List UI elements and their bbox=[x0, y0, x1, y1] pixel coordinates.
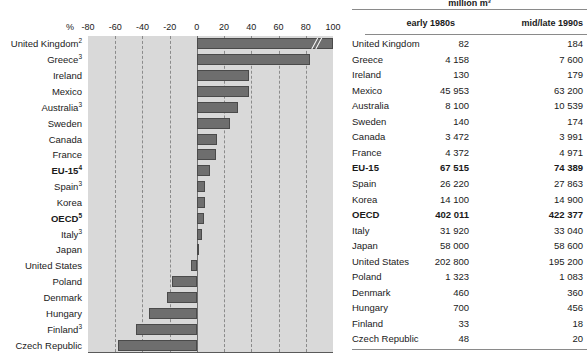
category-label-eu-15: EU-154 bbox=[51, 165, 82, 176]
table-cell-country: Finland bbox=[352, 318, 383, 329]
table-cell-country: OECD bbox=[352, 209, 379, 220]
x-axis-tick-labels: %-80-60-40-20020406080100 bbox=[0, 22, 345, 36]
bar-czech-republic bbox=[118, 340, 197, 351]
table-cell-country: Korea bbox=[352, 194, 377, 205]
table-cell-mid-late-1990s: 179 bbox=[503, 69, 583, 80]
category-label-canada: Canada bbox=[49, 134, 82, 145]
table-cell-early-1980s: 26 220 bbox=[389, 178, 469, 189]
table-cell-mid-late-1990s: 456 bbox=[503, 302, 583, 313]
table-cell-country: Sweden bbox=[352, 116, 386, 127]
category-label-france: France bbox=[52, 149, 82, 160]
table-row: Mexico45 95363 200 bbox=[352, 85, 587, 102]
table-cell-early-1980s: 67 515 bbox=[389, 162, 469, 173]
table-cell-country: Spain bbox=[352, 178, 376, 189]
bar-eu-15 bbox=[197, 165, 211, 176]
category-label-ireland: Ireland bbox=[53, 70, 82, 81]
bar-united-kingdom bbox=[197, 38, 333, 49]
category-label-united-states: United States bbox=[25, 260, 82, 271]
table-cell-country: Hungary bbox=[352, 302, 388, 313]
table-cell-mid-late-1990s: 63 200 bbox=[503, 85, 583, 96]
table-cell-mid-late-1990s: 4 971 bbox=[503, 147, 583, 158]
table-row: Czech Republic4820 bbox=[352, 333, 587, 350]
table-cell-early-1980s: 202 800 bbox=[389, 256, 469, 267]
footnote-marker: 3 bbox=[78, 180, 82, 187]
table-row: EU-1567 51574 389 bbox=[352, 162, 587, 179]
bar-mexico bbox=[197, 86, 249, 97]
table-cell-mid-late-1990s: 1 083 bbox=[503, 271, 583, 282]
bar-sweden bbox=[197, 118, 230, 129]
category-axis-labels: United Kingdom2Greece3IrelandMexicoAustr… bbox=[0, 36, 85, 353]
table-row: France4 3724 971 bbox=[352, 147, 587, 164]
table-row: Greece4 1587 600 bbox=[352, 54, 587, 71]
table-cell-mid-late-1990s: 14 900 bbox=[503, 194, 583, 205]
plot-area bbox=[88, 36, 333, 353]
category-label-spain: Spain3 bbox=[54, 181, 82, 192]
table-cell-mid-late-1990s: 58 600 bbox=[503, 240, 583, 251]
table-cell-early-1980s: 31 920 bbox=[389, 225, 469, 236]
footnote-marker: 3 bbox=[78, 323, 82, 330]
table-cell-country: Italy bbox=[352, 225, 369, 236]
bar-japan bbox=[197, 244, 199, 255]
bar-france bbox=[197, 149, 216, 160]
category-label-korea: Korea bbox=[57, 197, 82, 208]
bar-italy bbox=[197, 229, 202, 240]
table-row: Canada3 4723 991 bbox=[352, 131, 587, 148]
table-cell-mid-late-1990s: 422 377 bbox=[503, 209, 583, 220]
table-row: United States202 800195 200 bbox=[352, 256, 587, 273]
table-row: Korea14 10014 900 bbox=[352, 194, 587, 211]
bar-chart-panel: %-80-60-40-20020406080100 United Kingdom… bbox=[0, 0, 345, 364]
bar-canada bbox=[197, 134, 217, 145]
table-cell-mid-late-1990s: 74 389 bbox=[503, 162, 583, 173]
x-axis-tick-neg60: -60 bbox=[109, 22, 122, 32]
bar-spain bbox=[197, 181, 205, 192]
table-header-rule bbox=[365, 34, 587, 35]
bar-ireland bbox=[197, 70, 249, 81]
category-label-oecd: OECD5 bbox=[51, 213, 82, 224]
table-cell-country: Australia bbox=[352, 100, 389, 111]
table-cell-mid-late-1990s: 20 bbox=[503, 333, 583, 344]
table-cell-mid-late-1990s: 174 bbox=[503, 116, 583, 127]
table-cell-mid-late-1990s: 18 bbox=[503, 318, 583, 329]
table-row: Sweden140174 bbox=[352, 116, 587, 133]
data-table-panel: million m³ early 1980s mid/late 1990s Un… bbox=[352, 0, 587, 364]
x-axis-tick-100: 100 bbox=[325, 22, 340, 32]
bar-poland bbox=[172, 276, 197, 287]
bar-korea bbox=[197, 197, 205, 208]
bar-denmark bbox=[167, 292, 197, 303]
table-cell-early-1980s: 45 953 bbox=[389, 85, 469, 96]
category-label-sweden: Sweden bbox=[48, 118, 82, 129]
gridline-20 bbox=[224, 36, 225, 352]
footnote-marker: 2 bbox=[78, 37, 82, 44]
table-cell-mid-late-1990s: 7 600 bbox=[503, 54, 583, 65]
table-cell-early-1980s: 4 158 bbox=[389, 54, 469, 65]
table-cell-mid-late-1990s: 10 539 bbox=[503, 100, 583, 111]
table-cell-early-1980s: 140 bbox=[389, 116, 469, 127]
table-cell-country: EU-15 bbox=[352, 162, 379, 173]
gridline-60 bbox=[279, 36, 280, 352]
bar-finland bbox=[136, 324, 197, 335]
category-label-united-kingdom: United Kingdom2 bbox=[11, 38, 82, 49]
table-cell-mid-late-1990s: 27 863 bbox=[503, 178, 583, 189]
gridline-neg60 bbox=[115, 36, 116, 352]
category-label-denmark: Denmark bbox=[43, 292, 82, 303]
table-cell-early-1980s: 82 bbox=[389, 38, 469, 49]
bar-greece bbox=[197, 54, 310, 65]
table-cell-country: Greece bbox=[352, 54, 383, 65]
table-cell-country: France bbox=[352, 147, 382, 158]
table-cell-mid-late-1990s: 195 200 bbox=[503, 256, 583, 267]
gridline-80 bbox=[306, 36, 307, 352]
table-body: United Kingdom82184Greece4 1587 600Irela… bbox=[352, 38, 587, 349]
zero-line bbox=[197, 36, 198, 352]
table-row: Hungary700456 bbox=[352, 302, 587, 319]
table-cell-early-1980s: 58 000 bbox=[389, 240, 469, 251]
category-label-italy: Italy3 bbox=[61, 229, 82, 240]
category-label-poland: Poland bbox=[52, 276, 82, 287]
table-cell-early-1980s: 1 323 bbox=[389, 271, 469, 282]
table-cell-country: Poland bbox=[352, 271, 382, 282]
bar-australia bbox=[197, 102, 238, 113]
category-label-greece: Greece3 bbox=[47, 54, 82, 65]
x-axis-tick-20: 20 bbox=[219, 22, 229, 32]
table-row: OECD402 011422 377 bbox=[352, 209, 587, 226]
table-row: Finland3318 bbox=[352, 318, 587, 335]
category-label-hungary: Hungary bbox=[46, 308, 82, 319]
